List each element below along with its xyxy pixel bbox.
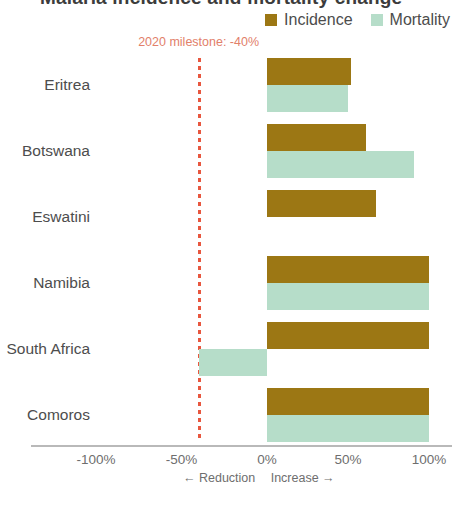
bar-mortality — [267, 85, 348, 112]
chart-container: Malaria incidence and mortality change I… — [0, 0, 464, 508]
legend-item-incidence: Incidence — [265, 12, 353, 28]
bar-mortality — [267, 151, 414, 178]
bar-row: South Africa — [0, 322, 464, 382]
legend-swatch-mortality — [371, 14, 383, 26]
plot-area: 2020 milestone: -40% EritreaBotswanaEswa… — [0, 52, 464, 445]
x-axis-tick-label: -100% — [76, 452, 115, 467]
milestone-annotation-label: 2020 milestone: -40% — [138, 35, 259, 49]
category-label: South Africa — [6, 340, 90, 358]
bar-row: Eswatini — [0, 190, 464, 250]
category-label: Namibia — [33, 274, 90, 292]
category-label: Eswatini — [32, 208, 90, 226]
bar-mortality — [199, 349, 267, 376]
x-axis-line — [31, 445, 452, 447]
bar-row: Namibia — [0, 256, 464, 316]
bar-row: Botswana — [0, 124, 464, 184]
category-label: Comoros — [27, 406, 90, 424]
bar-incidence — [267, 388, 429, 415]
x-axis-tick-label: 50% — [334, 452, 361, 467]
legend-label-mortality: Mortality — [390, 12, 450, 28]
category-label: Eritrea — [44, 76, 90, 94]
chart-title: Malaria incidence and mortality change — [40, 0, 402, 9]
legend-label-incidence: Incidence — [284, 12, 353, 28]
bar-mortality — [267, 283, 429, 310]
category-label: Botswana — [22, 142, 90, 160]
axis-direction-reduction: ← Reduction — [183, 471, 255, 485]
bar-row: Comoros — [0, 388, 464, 448]
x-axis-tick-label: 0% — [257, 452, 277, 467]
bar-incidence — [267, 124, 366, 151]
bar-incidence — [267, 256, 429, 283]
legend-item-mortality: Mortality — [371, 12, 450, 28]
axis-direction-increase: Increase → — [271, 471, 335, 485]
bar-row: Eritrea — [0, 58, 464, 118]
bar-incidence — [267, 190, 376, 217]
bar-incidence — [267, 58, 351, 85]
legend-swatch-incidence — [265, 14, 277, 26]
bar-mortality — [267, 415, 429, 442]
chart-legend: Incidence Mortality — [265, 12, 450, 28]
x-axis-tick-label: -50% — [166, 452, 198, 467]
x-axis-tick-label: 100% — [412, 452, 447, 467]
bar-incidence — [267, 322, 429, 349]
